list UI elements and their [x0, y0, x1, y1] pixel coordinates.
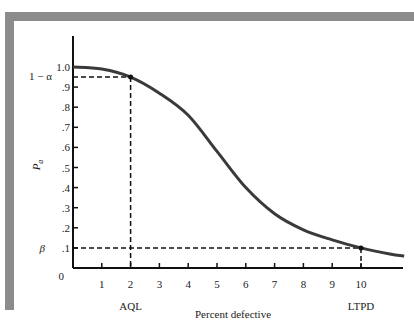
beta-label: β	[39, 242, 46, 254]
aql-point	[128, 75, 133, 80]
y-tick-label: 0	[59, 270, 65, 282]
x-tick-label: 10	[356, 278, 368, 290]
x-tick-label: 1	[99, 278, 105, 290]
x-tick-label: 2	[128, 278, 134, 290]
ltpd-point	[359, 245, 364, 250]
y-tick-label: .2	[62, 222, 70, 234]
y-tick-label: 1.0	[56, 61, 70, 73]
y-tick-label: .4	[62, 182, 71, 194]
x-tick-label: 3	[157, 278, 163, 290]
x-tick-label: 8	[301, 278, 307, 290]
oc-curve-chart: 0.1.2.3.4.5.6.7.8.91.0123456789101 − αβA…	[0, 0, 414, 322]
y-tick-label: .9	[62, 81, 71, 93]
aql-label: AQL	[119, 300, 142, 312]
x-tick-label: 9	[329, 278, 335, 290]
y-tick-label: .6	[62, 141, 71, 153]
y-axis-title: Pa	[30, 160, 45, 172]
ltpd-label: LTPD	[348, 300, 375, 312]
y-tick-label: .1	[62, 242, 70, 254]
x-tick-label: 5	[214, 278, 220, 290]
y-tick-label: .7	[62, 121, 71, 133]
alpha-label: 1 − α	[29, 70, 52, 82]
x-axis-title: Percent defective	[195, 308, 271, 320]
x-tick-label: 4	[185, 278, 191, 290]
x-tick-label: 6	[243, 278, 249, 290]
y-tick-label: .8	[62, 101, 71, 113]
x-tick-label: 7	[272, 278, 278, 290]
y-tick-label: .3	[62, 202, 71, 214]
oc-curve	[73, 67, 404, 256]
y-tick-label: .5	[62, 162, 71, 174]
